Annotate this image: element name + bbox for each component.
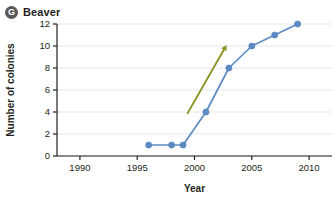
gridlines [57,24,332,156]
x-tick-label: 2000 [184,162,205,173]
y-tick-label: 12 [39,18,50,29]
x-tick-label: 1990 [69,162,90,173]
plot-area: 024681012 19901995200020052010 Number of… [0,16,336,205]
trend-arrow-annotation [188,45,227,113]
y-tick-label: 4 [45,106,50,117]
y-tick-label: 8 [45,62,50,73]
data-point-marker [226,65,232,71]
data-point-marker [203,109,209,115]
data-point-marker [180,142,186,148]
y-tick-label: 6 [45,84,50,95]
x-axis-ticks: 19901995200020052010 [69,156,319,173]
data-point-marker [295,21,301,27]
trend-arrow-shaft [188,48,225,113]
y-tick-label: 2 [45,128,50,139]
y-tick-label: 10 [39,40,50,51]
data-point-marker [272,32,278,38]
x-axis-title: Year [184,183,205,194]
y-tick-label: 0 [45,150,50,161]
x-tick-label: 2010 [299,162,320,173]
data-point-marker [146,142,152,148]
series-line-number-of-colonies [149,24,298,145]
series-markers [146,21,301,148]
line-chart-svg: 024681012 19901995200020052010 Number of… [0,16,336,205]
x-tick-label: 1995 [127,162,148,173]
data-point-marker [168,142,174,148]
chart-figure: G Beaver 024681012 19901995200020052010 … [0,0,336,205]
data-point-marker [249,43,255,49]
y-axis-ticks: 024681012 [39,18,57,161]
y-axis-title: Number of colonies [5,43,16,137]
x-tick-label: 2005 [241,162,262,173]
